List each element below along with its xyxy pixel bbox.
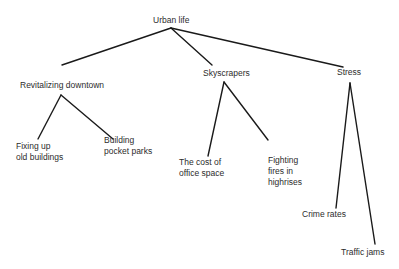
node-skyscrapers: Skyscrapers [203, 68, 250, 79]
tree-edges [0, 0, 399, 269]
edge-skyscrapers-fighting [224, 82, 268, 140]
edge-stress-crime [336, 83, 350, 208]
node-traffic-jams: Traffic jams [341, 247, 384, 258]
edge-root-stress [171, 28, 343, 67]
node-urban-life: Urban life [153, 15, 189, 26]
edge-skyscrapers-cost [208, 82, 224, 156]
node-crime-rates: Crime rates [302, 209, 346, 220]
edge-stress-traffic [350, 83, 375, 244]
edge-root-skyscrapers [171, 28, 212, 65]
edge-revitalizing-fixing [38, 95, 61, 139]
edge-root-revitalizing [62, 28, 171, 65]
node-revitalizing-downtown: Revitalizing downtown [20, 80, 104, 91]
node-fixing-up-old-buildings: Fixing up old buildings [16, 141, 63, 163]
node-cost-of-office-space: The cost of office space [179, 157, 224, 179]
node-building-pocket-parks: Building pocket parks [104, 135, 152, 157]
edge-revitalizing-building [61, 95, 113, 139]
node-stress: Stress [337, 67, 361, 78]
node-fighting-fires-in-highrises: Fighting fires in highrises [268, 155, 302, 188]
